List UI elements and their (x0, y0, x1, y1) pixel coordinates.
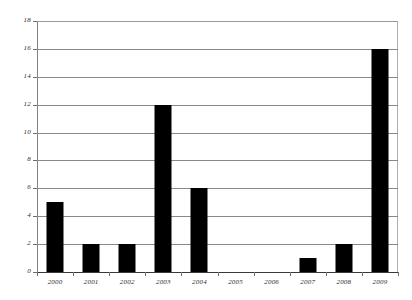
x-axis-tick-mark (218, 272, 219, 276)
x-axis-tick-mark (73, 272, 74, 276)
bar-slot (290, 21, 326, 272)
x-axis-tick-label: 2008 (326, 279, 362, 286)
bar[interactable] (371, 49, 388, 272)
y-axis-tick-label: 10 (1, 129, 31, 136)
y-axis-tick-label: 0 (1, 268, 31, 275)
bar-slot (109, 21, 145, 272)
bar[interactable] (191, 188, 208, 272)
y-axis-tick-label: 4 (1, 212, 31, 219)
bar[interactable] (335, 244, 352, 272)
y-axis-tick-label: 2 (1, 240, 31, 247)
x-axis-tick-mark (398, 272, 399, 276)
x-axis-tick-mark (362, 272, 363, 276)
x-axis-tick-mark (145, 272, 146, 276)
x-axis-tick-mark (37, 272, 38, 276)
x-axis-tick-mark (109, 272, 110, 276)
y-axis-tick-label: 8 (1, 156, 31, 163)
x-axis-tick-mark (326, 272, 327, 276)
y-axis-tick-label: 18 (1, 17, 31, 24)
bars-layer (37, 21, 398, 272)
bar[interactable] (83, 244, 100, 272)
bar[interactable] (155, 105, 172, 272)
y-axis-tick-label: 6 (1, 184, 31, 191)
x-axis-tick-label: 2003 (145, 279, 181, 286)
y-axis-tick-label: 14 (1, 73, 31, 80)
x-axis-tick-label: 2007 (290, 279, 326, 286)
x-axis-tick-label: 2002 (109, 279, 145, 286)
x-axis-tick-label: 2006 (254, 279, 290, 286)
x-axis-tick-mark (254, 272, 255, 276)
bar[interactable] (119, 244, 136, 272)
bar-slot (145, 21, 181, 272)
bar-chart: 024681012141618 200020012002200320042005… (0, 0, 412, 300)
bar[interactable] (47, 202, 64, 272)
bar-slot (218, 21, 254, 272)
x-axis-tick-mark (181, 272, 182, 276)
x-axis-tick-label: 2000 (37, 279, 73, 286)
x-axis-tick-label: 2001 (73, 279, 109, 286)
bar-slot (181, 21, 217, 272)
x-axis-tick-mark (290, 272, 291, 276)
bar-slot (73, 21, 109, 272)
bar-slot (362, 21, 398, 272)
y-axis-tick-label: 16 (1, 45, 31, 52)
x-axis-tick-label: 2004 (181, 279, 217, 286)
bar[interactable] (299, 258, 316, 272)
y-axis-tick-label: 12 (1, 101, 31, 108)
x-axis-tick-label: 2005 (218, 279, 254, 286)
bar-slot (37, 21, 73, 272)
x-axis-tick-label: 2009 (362, 279, 398, 286)
bar-slot (254, 21, 290, 272)
bar-slot (326, 21, 362, 272)
